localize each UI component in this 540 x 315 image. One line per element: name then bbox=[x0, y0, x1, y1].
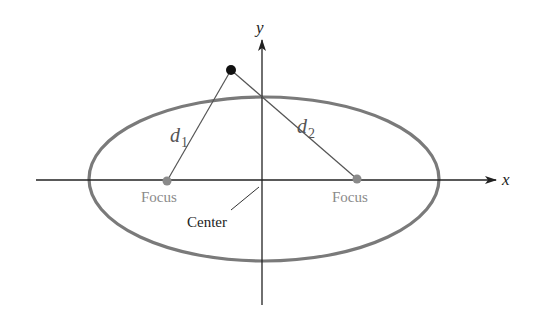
focus-left-label: Focus bbox=[141, 189, 177, 205]
d1-label: d1 bbox=[170, 124, 188, 150]
d1-subscript: 1 bbox=[181, 135, 188, 150]
focus-right-label: Focus bbox=[332, 189, 368, 205]
d2-label: d2 bbox=[297, 115, 315, 141]
diagram-svg: x y d1 d2 Focus Focus Center bbox=[0, 0, 540, 315]
d1-letter: d bbox=[170, 124, 181, 146]
x-axis-label: x bbox=[501, 170, 510, 189]
center-label: Center bbox=[187, 214, 227, 230]
ellipse-curve bbox=[89, 97, 439, 261]
ellipse-point bbox=[226, 65, 236, 75]
y-axis-label: y bbox=[254, 18, 264, 37]
ellipse-diagram: x y d1 d2 Focus Focus Center bbox=[0, 0, 540, 315]
focus-right-point bbox=[353, 175, 362, 184]
d2-letter: d bbox=[297, 115, 308, 137]
center-leader-line bbox=[231, 187, 259, 210]
d2-subscript: 2 bbox=[308, 126, 315, 141]
focus-left-point bbox=[163, 177, 172, 186]
d2-segment bbox=[231, 70, 357, 179]
